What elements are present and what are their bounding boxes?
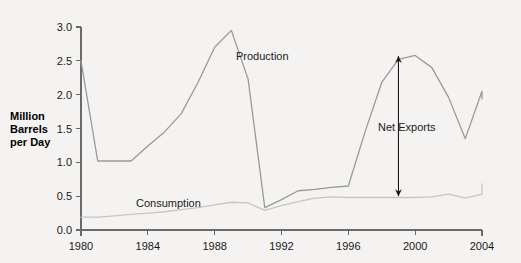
x-tick-label: 1996 bbox=[336, 240, 360, 252]
y-axis-title-line: Barrels bbox=[10, 123, 48, 135]
annotation-net-exports: Net Exports bbox=[378, 121, 436, 133]
y-tick-label: 2.5 bbox=[57, 55, 72, 67]
chart-canvas: 0.00.51.01.52.02.53.01980198419881992199… bbox=[0, 0, 521, 263]
line-chart: 0.00.51.01.52.02.53.01980198419881992199… bbox=[0, 0, 521, 263]
y-tick-label: 0.0 bbox=[57, 224, 72, 236]
x-tick-label: 1988 bbox=[202, 240, 226, 252]
y-axis-title-line: per Day bbox=[10, 136, 51, 148]
y-tick-label: 3.0 bbox=[57, 21, 72, 33]
x-tick-label: 2004 bbox=[470, 240, 494, 252]
y-tick-label: 1.5 bbox=[57, 123, 72, 135]
annotation-consumption: Consumption bbox=[136, 197, 201, 209]
y-tick-label: 0.5 bbox=[57, 190, 72, 202]
x-tick-label: 2000 bbox=[403, 240, 427, 252]
x-tick-label: 1980 bbox=[69, 240, 93, 252]
y-axis-title-line: Million bbox=[10, 110, 45, 122]
y-axis-title: MillionBarrelsper Day bbox=[10, 110, 51, 148]
annotation-production: Production bbox=[236, 50, 289, 62]
x-tick-label: 1992 bbox=[269, 240, 293, 252]
y-tick-label: 1.0 bbox=[57, 156, 72, 168]
y-tick-label: 2.0 bbox=[57, 89, 72, 101]
x-tick-label: 1984 bbox=[136, 240, 160, 252]
annotations: ProductionConsumptionNet Exports bbox=[136, 50, 436, 209]
